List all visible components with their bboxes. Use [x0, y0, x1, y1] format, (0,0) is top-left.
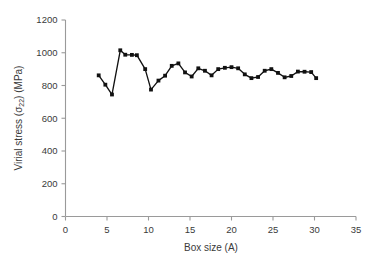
data-point-marker	[135, 53, 139, 57]
y-tick-label: 1200	[36, 14, 57, 25]
data-point-marker	[143, 67, 147, 71]
data-point-marker	[230, 65, 234, 69]
data-point-marker	[269, 67, 273, 71]
y-axis: 020040060080010001200	[36, 14, 65, 222]
data-point-marker	[110, 93, 114, 97]
x-tick-group	[66, 217, 357, 221]
x-tick-label: 35	[351, 224, 362, 235]
y-tick-label: 1000	[36, 47, 57, 58]
x-tick-label: 0	[63, 224, 68, 235]
data-point-marker	[190, 75, 194, 79]
y-axis-title-post: ) (MPa)	[13, 66, 24, 99]
data-point-marker	[276, 71, 280, 75]
chart-figure: 020040060080010001200 05101520253035 Box…	[0, 0, 375, 276]
data-point-marker	[263, 69, 267, 73]
y-tick-label: 200	[42, 178, 58, 189]
data-point-marker	[130, 53, 134, 57]
data-point-marker	[118, 48, 122, 52]
data-point-marker	[314, 76, 318, 80]
y-axis-title: Virial stress (σ22) (MPa)	[13, 66, 25, 171]
x-tick-label: 25	[268, 224, 279, 235]
data-point-marker	[103, 83, 107, 87]
x-tick-label: 5	[104, 224, 109, 235]
y-tick-label: 600	[42, 113, 58, 124]
data-point-marker	[176, 61, 180, 65]
x-tick-label-group: 05101520253035	[63, 224, 361, 235]
data-point-marker	[303, 70, 307, 74]
data-point-marker	[236, 66, 240, 70]
series-line-virial-stress	[99, 50, 316, 94]
data-point-marker	[183, 71, 187, 75]
data-point-marker	[149, 88, 153, 92]
data-point-marker	[283, 75, 287, 79]
data-point-marker	[296, 70, 300, 74]
x-tick-label: 30	[309, 224, 320, 235]
y-tick-label: 400	[42, 145, 58, 156]
x-axis-title: Box size (A)	[184, 242, 238, 253]
data-point-marker	[289, 74, 293, 78]
data-point-marker	[196, 66, 200, 70]
y-tick-label: 0	[52, 211, 57, 222]
y-axis-title-pre: Virial stress (	[13, 112, 24, 170]
data-point-marker	[203, 69, 207, 73]
data-point-marker	[157, 79, 161, 83]
data-point-marker	[243, 72, 247, 76]
virial-stress-line-chart: 020040060080010001200 05101520253035 Box…	[0, 0, 375, 276]
data-point-marker	[170, 64, 174, 68]
data-point-marker	[210, 73, 214, 77]
data-point-marker	[97, 73, 101, 77]
x-tick-label: 15	[185, 224, 196, 235]
data-point-marker	[123, 53, 127, 57]
y-tick-group	[62, 20, 66, 217]
data-point-marker	[309, 70, 313, 74]
y-tick-label-group: 020040060080010001200	[36, 14, 57, 222]
y-tick-label: 800	[42, 80, 58, 91]
y-axis-title-subscript: 22	[18, 99, 25, 107]
x-axis: 05101520253035	[63, 217, 361, 235]
x-tick-label: 20	[226, 224, 237, 235]
data-point-marker	[163, 74, 167, 78]
data-point-marker	[216, 67, 220, 71]
data-point-marker	[223, 66, 227, 70]
data-series-group	[97, 48, 318, 96]
data-point-marker	[250, 76, 254, 80]
x-tick-label: 10	[143, 224, 154, 235]
data-point-marker	[256, 75, 260, 79]
